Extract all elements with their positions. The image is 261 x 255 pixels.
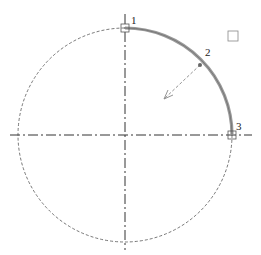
point-3-label: 3	[236, 120, 242, 132]
radius-arrow-line	[164, 65, 200, 99]
point-2-label: 2	[205, 46, 211, 58]
square-icon[interactable]	[228, 31, 238, 41]
point-2-marker[interactable]	[198, 63, 202, 67]
selected-arc[interactable]	[125, 28, 232, 135]
arc-diagram: 1 2 3	[0, 0, 261, 255]
point-1-label: 1	[131, 14, 137, 26]
